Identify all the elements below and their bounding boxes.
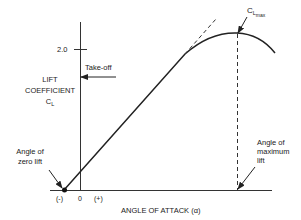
cl-subscript: L	[51, 101, 54, 107]
y-tick-label: 2.0	[57, 45, 67, 54]
zero-lift-label: Angle of zero lift	[8, 147, 52, 166]
clmax-arrow	[238, 17, 247, 33]
clmax-label: CLmax	[247, 6, 265, 20]
max-lift-line2: maximum	[257, 147, 290, 156]
zero-lift-point	[62, 188, 67, 193]
x-tick-zero: 0	[78, 194, 82, 203]
lift-curve	[64, 33, 275, 190]
linear-extension-dashed	[185, 19, 216, 54]
max-lift-line1: Angle of	[257, 138, 290, 147]
zero-lift-arrow	[49, 170, 62, 188]
y-axis-label-line2: COEFFICIENT	[22, 86, 78, 95]
x-axis-label: ANGLE OF ATTACK (α)	[121, 206, 200, 215]
zero-lift-line2: zero lift	[8, 157, 52, 166]
max-lift-line3: lift	[257, 156, 290, 165]
max-lift-arrow	[238, 167, 255, 189]
y-axis-label: LIFT COEFFICIENT CL	[22, 75, 78, 109]
zero-lift-line1: Angle of	[8, 147, 52, 156]
lift-curve-diagram	[0, 0, 301, 220]
x-tick-pos: (+)	[94, 194, 103, 203]
y-axis-label-line1: LIFT	[22, 75, 78, 84]
takeoff-label: Take-off	[85, 63, 112, 72]
clmax-sub-max: max	[256, 12, 265, 18]
x-tick-neg: (-)	[56, 194, 63, 203]
max-lift-label: Angle of maximum lift	[257, 138, 290, 165]
y-axis-label-symbol: CL	[22, 97, 78, 109]
